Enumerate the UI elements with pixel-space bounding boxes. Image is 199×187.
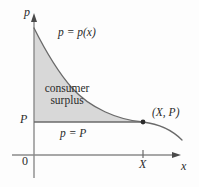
- figure-canvas: [0, 0, 199, 187]
- equilibrium-point-marker: [141, 120, 146, 125]
- consumer-surplus-label-line1: consumer: [38, 82, 96, 94]
- consumer-surplus-label-line2: surplus: [38, 94, 96, 106]
- origin-label: 0: [22, 155, 28, 168]
- x-tick-label: X: [139, 158, 146, 171]
- price-line-label: p = P: [60, 127, 86, 139]
- p-axis-arrowhead: [31, 13, 37, 22]
- consumer-surplus-figure: p x 0 P X p = p(x) p = P (X, P) consumer…: [0, 0, 199, 187]
- consumer-surplus-label: consumer surplus: [38, 82, 96, 106]
- p-tick-label: P: [20, 113, 27, 126]
- x-axis-label: x: [181, 160, 186, 173]
- x-axis-arrowhead: [172, 152, 181, 158]
- consumer-surplus-region: [34, 28, 143, 122]
- demand-curve-label: p = p(x): [58, 26, 96, 38]
- p-axis-label: p: [24, 6, 30, 19]
- equilibrium-point-label: (X, P): [152, 106, 179, 118]
